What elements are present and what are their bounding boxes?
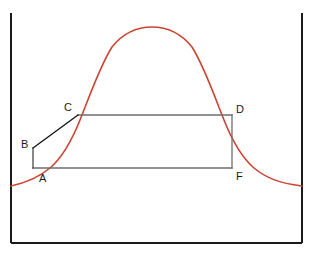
bell-curve-figure: A B C D F (0, 0, 323, 257)
vertex-label-b: B (21, 138, 28, 150)
figure-background (0, 0, 323, 257)
vertex-label-a: A (39, 172, 47, 184)
figure-root: A B C D F (0, 0, 323, 257)
vertex-label-f: F (236, 170, 243, 182)
vertex-label-c: C (64, 101, 72, 113)
vertex-label-d: D (236, 103, 244, 115)
